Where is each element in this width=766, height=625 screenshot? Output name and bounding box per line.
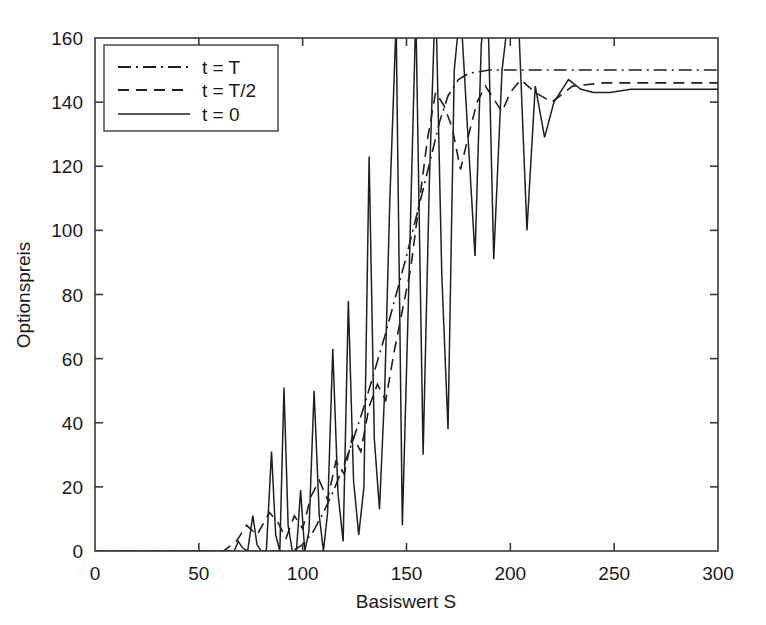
chart-legend: t = Tt = T/2t = 0 (104, 45, 278, 131)
x-axis-label: Basiswert S (356, 591, 456, 612)
y-tick-label: 100 (51, 220, 83, 241)
x-tick-label: 250 (598, 563, 630, 584)
x-tick-label: 300 (702, 563, 734, 584)
x-tick-label: 50 (188, 563, 209, 584)
option-price-line-chart: 050100150200250300 020406080100120140160… (0, 0, 766, 625)
x-tick-label: 0 (90, 563, 101, 584)
legend-label-0: t = T (202, 57, 241, 78)
legend-label-2: t = 0 (202, 104, 240, 125)
chart-figure: 050100150200250300 020406080100120140160… (0, 0, 766, 625)
y-tick-label: 20 (62, 477, 83, 498)
legend-label-1: t = T/2 (202, 80, 256, 101)
y-tick-label: 0 (72, 541, 83, 562)
y-tick-label: 60 (62, 349, 83, 370)
y-tick-label: 160 (51, 28, 83, 49)
x-tick-label: 100 (287, 563, 319, 584)
y-tick-label: 140 (51, 92, 83, 113)
y-axis-label: Optionspreis (13, 242, 34, 349)
y-tick-label: 80 (62, 285, 83, 306)
x-tick-label: 150 (391, 563, 423, 584)
y-tick-label: 40 (62, 413, 83, 434)
x-tick-label: 200 (494, 563, 526, 584)
y-tick-label: 120 (51, 156, 83, 177)
